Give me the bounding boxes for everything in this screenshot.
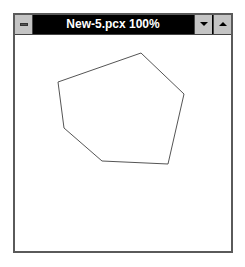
- image-canvas[interactable]: [15, 35, 231, 251]
- polygon-shape: [58, 53, 184, 164]
- image-window: New-5.pcx 100%: [13, 13, 233, 253]
- polygon-drawing: [0, 0, 245, 267]
